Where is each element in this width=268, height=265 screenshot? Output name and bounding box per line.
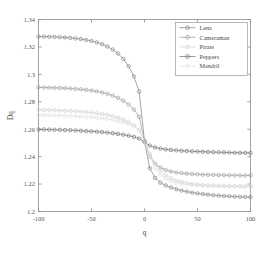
x-tick-label: 50: [194, 215, 200, 222]
legend-label: Mandril: [200, 62, 220, 69]
y-tick-label: 1.34: [24, 16, 36, 23]
y-tick-label: 1.28: [24, 98, 35, 105]
series-path: [39, 87, 251, 175]
legend-label: Peppers: [200, 53, 220, 60]
chart-canvas: -100-50050100 1.21.221.241.261.281.31.32…: [0, 0, 268, 265]
legend-label: Lena: [200, 24, 213, 31]
y-tick-label: 1.26: [24, 126, 35, 133]
x-tick-label: -50: [87, 215, 96, 222]
x-axis-label: q: [143, 229, 147, 237]
y-tick-label: 1.3: [27, 71, 35, 78]
y-tick-label: 1.22: [24, 180, 35, 187]
x-tick-label: 0: [143, 215, 146, 222]
y-tick-label: 1.32: [24, 43, 35, 50]
x-tick-label: -100: [33, 215, 45, 222]
series-path: [39, 115, 251, 187]
x-tick-label: 100: [246, 215, 256, 222]
y-tick-label: 1.24: [24, 153, 36, 160]
legend-label: Cameraman: [200, 34, 230, 41]
figure-container: -100-50050100 1.21.221.241.261.281.31.32…: [0, 0, 268, 265]
chart-legend: LenaCameramanPiratePeppersMandril: [176, 23, 248, 76]
legend-label: Pirate: [200, 43, 215, 50]
y-tick-label: 1.2: [27, 208, 35, 215]
y-axis-label: Dq: [7, 111, 15, 120]
